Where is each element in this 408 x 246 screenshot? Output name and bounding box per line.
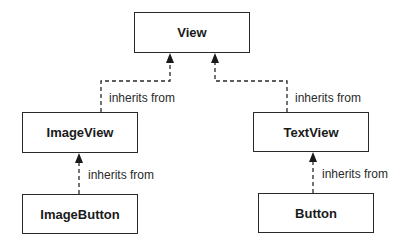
- node-label: TextView: [283, 125, 338, 140]
- node-label: View: [177, 25, 206, 40]
- node-imageview: ImageView: [22, 112, 138, 153]
- node-label: ImageView: [47, 125, 114, 140]
- node-textview: TextView: [253, 112, 369, 152]
- node-button: Button: [258, 193, 374, 233]
- arrowhead-icon: [309, 152, 317, 162]
- edge-label: inherits from: [322, 167, 388, 181]
- node-imagebutton: ImageButton: [22, 194, 138, 234]
- arrowhead-icon: [75, 153, 83, 163]
- edge-label: inherits from: [88, 168, 154, 182]
- node-label: Button: [295, 206, 337, 221]
- node-label: ImageButton: [40, 207, 119, 222]
- arrowhead-icon: [211, 53, 219, 63]
- node-view: View: [134, 12, 250, 53]
- edge-label: inherits from: [109, 91, 175, 105]
- edge-textview-view: [215, 62, 287, 112]
- edge-label: inherits from: [295, 91, 361, 105]
- arrowhead-icon: [166, 53, 174, 63]
